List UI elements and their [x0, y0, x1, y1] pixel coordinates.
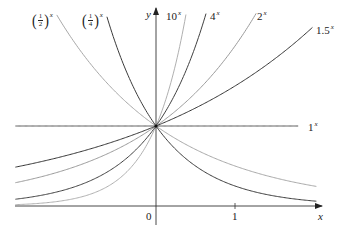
- label-quarter-pow-x: ( 14 ) x: [82, 13, 103, 28]
- x-tick-label-0: 0: [146, 211, 152, 222]
- y-axis-label: y: [146, 9, 151, 20]
- curves-group: [15, 13, 316, 204]
- intersection-point: [154, 124, 157, 127]
- label-one-pow-x: 1x: [308, 122, 318, 133]
- curve-4-x: [15, 14, 206, 200]
- label-two-pow-x: 2x: [257, 11, 267, 22]
- label-onefive-pow-x: 1.5x: [316, 25, 334, 36]
- curve-2-x: [15, 13, 256, 182]
- label-ten-pow-x: 10x: [166, 11, 181, 22]
- plot-area: [0, 0, 346, 238]
- label-half-pow-x: ( 12 ) x: [32, 13, 53, 28]
- label-four-pow-x: 4x: [210, 11, 220, 22]
- curve-1.5-x: [15, 27, 312, 167]
- x-tick-label-1: 1: [232, 211, 238, 222]
- curve--1-2--x: [57, 15, 317, 186]
- exponential-functions-chart: ( 12 ) x ( 14 ) x y 10x 4x 2x 1.5x 1x 0 …: [0, 0, 346, 238]
- curve--1-4--x: [107, 17, 316, 201]
- x-axis-label: x: [318, 211, 323, 222]
